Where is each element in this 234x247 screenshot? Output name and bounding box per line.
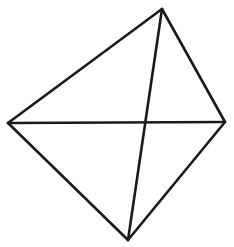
diagonal-horizontal-line — [8, 122, 225, 123]
figure-canvas — [0, 0, 234, 247]
quadrilateral-diagram — [0, 0, 234, 247]
